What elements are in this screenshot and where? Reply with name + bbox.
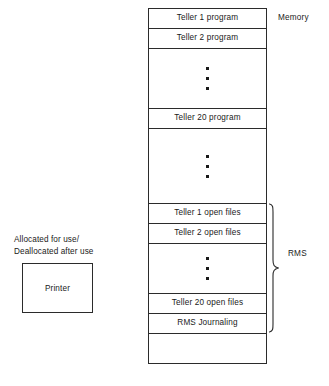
memory-row-label: Teller 20 open files	[172, 299, 243, 307]
memory-caption: Memory	[278, 13, 309, 22]
memory-row-teller-1-open-files: Teller 1 open files	[149, 204, 266, 224]
memory-row-gap-ellipsis	[149, 129, 266, 204]
memory-row-open-files-ellipsis	[149, 244, 266, 294]
printer-allocation-caption-line1: Allocated for use/	[14, 234, 93, 246]
memory-row-teller-1-program: Teller 1 program	[149, 9, 266, 29]
memory-column: Teller 1 program Teller 2 program Teller…	[148, 8, 267, 364]
vertical-ellipsis-icon	[206, 257, 209, 280]
memory-row-teller-2-open-files: Teller 2 open files	[149, 224, 266, 244]
vertical-ellipsis-icon	[206, 155, 209, 178]
printer-allocation-caption: Allocated for use/ Deallocated after use	[14, 234, 93, 257]
vertical-ellipsis-icon	[206, 67, 209, 90]
memory-row-label: RMS Journaling	[177, 319, 237, 327]
memory-row-programs-ellipsis	[149, 49, 266, 109]
memory-row-free-space	[149, 334, 266, 364]
rms-caption: RMS	[288, 249, 307, 258]
memory-row-label: Teller 1 program	[177, 14, 239, 22]
memory-row-teller-20-open-files: Teller 20 open files	[149, 294, 266, 314]
memory-row-label: Teller 2 program	[177, 34, 239, 42]
memory-row-teller-20-program: Teller 20 program	[149, 109, 266, 129]
memory-row-teller-2-program: Teller 2 program	[149, 29, 266, 49]
memory-row-label: Teller 20 program	[174, 114, 240, 122]
printer-allocation-caption-line2: Deallocated after use	[14, 246, 93, 258]
diagram-canvas: Teller 1 program Teller 2 program Teller…	[0, 0, 329, 386]
memory-row-rms-journaling: RMS Journaling	[149, 314, 266, 334]
printer-box: Printer	[22, 263, 93, 313]
memory-row-label: Teller 1 open files	[174, 209, 241, 217]
rms-brace-icon	[268, 203, 280, 333]
memory-row-label: Teller 2 open files	[174, 229, 241, 237]
printer-box-label: Printer	[45, 284, 70, 293]
